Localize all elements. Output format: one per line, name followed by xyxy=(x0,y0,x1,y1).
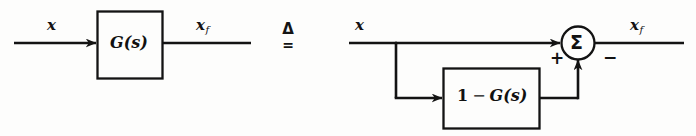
transfer-function-block-label: G(s) xyxy=(110,35,148,51)
left-input-label: x xyxy=(47,18,56,33)
left-output-subscript: f xyxy=(205,24,209,35)
delta-icon: Δ xyxy=(277,22,299,37)
block-diagram-figure: x G(s) xf Δ = x 1−G(s) Σ + − xf xyxy=(0,0,696,136)
definition-equality-symbol: Δ = xyxy=(277,22,299,52)
block-operator: − xyxy=(468,86,489,105)
right-diagram-group xyxy=(349,27,684,129)
right-output-label: xf xyxy=(630,18,643,35)
right-input-label: x xyxy=(355,18,364,33)
summing-junction-minus-sign: − xyxy=(603,49,617,66)
right-output-subscript: f xyxy=(639,24,643,35)
block-leading-term: 1 xyxy=(457,86,468,105)
diagram-canvas xyxy=(0,0,696,136)
equals-icon: = xyxy=(277,38,299,52)
left-output-label: xf xyxy=(196,18,209,35)
summing-junction-plus-sign: + xyxy=(550,50,564,67)
summing-junction-symbol: Σ xyxy=(570,33,583,52)
block-trailing-term: G(s) xyxy=(490,86,528,105)
complementary-filter-block-label: 1−G(s) xyxy=(457,88,527,104)
